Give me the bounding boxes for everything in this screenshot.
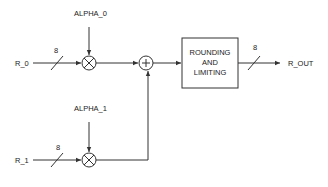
output-label-rout: R_OUT <box>288 59 314 68</box>
multiplier-1-icon <box>82 153 96 167</box>
mixer-block-diagram: R_0 8 ALPHA_0 ROUNDING AND LIMITING 8 R_… <box>0 0 328 187</box>
input-label-r0: R_0 <box>15 59 29 68</box>
r1-bus-width: 8 <box>56 143 60 152</box>
adder-icon <box>139 56 153 70</box>
input-label-r1: R_1 <box>15 156 29 165</box>
block-label-line-1: ROUNDING <box>190 48 231 57</box>
product1-line <box>96 71 148 160</box>
output-bus-width: 8 <box>253 43 257 52</box>
coefficient-label-alpha0: ALPHA_0 <box>74 9 107 18</box>
coefficient-label-alpha1: ALPHA_1 <box>74 104 107 113</box>
block-label-line-3: LIMITING <box>194 68 227 77</box>
r0-bus-width: 8 <box>54 46 58 55</box>
block-label-line-2: AND <box>202 58 218 67</box>
multiplier-0-icon <box>82 56 96 70</box>
